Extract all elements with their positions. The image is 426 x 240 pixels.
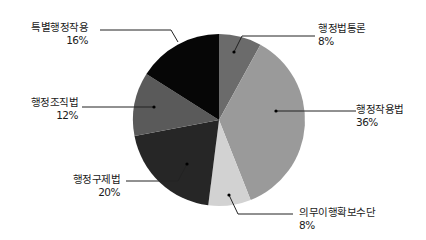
label-slice-2: 의무이행확보수단 8% [299,206,375,232]
slice-name: 의무이행확보수단 [299,206,375,218]
label-slice-3: 행정구제법 20% [40,173,120,199]
slice-name: 행정조직법 [31,96,79,108]
slice-percent: 20% [40,186,120,199]
label-slice-0: 행정법통론 8% [318,22,366,48]
slice-name: 특별행정작용 [31,21,88,33]
label-slice-1: 행정작용법 36% [356,103,426,129]
slice-percent: 36% [356,116,426,129]
slice-percent: 12% [0,109,78,122]
label-slice-5: 특별행정작용 16% [0,21,88,47]
slice-name: 행정작용법 [356,103,404,115]
slice-name: 행정법통론 [318,22,366,34]
pie-slices [133,34,305,206]
slice-percent: 16% [0,34,88,47]
label-slice-4: 행정조직법 12% [0,96,78,122]
slice-percent: 8% [299,219,375,232]
slice-percent: 8% [318,35,366,48]
slice-name: 행정구제법 [73,173,121,185]
